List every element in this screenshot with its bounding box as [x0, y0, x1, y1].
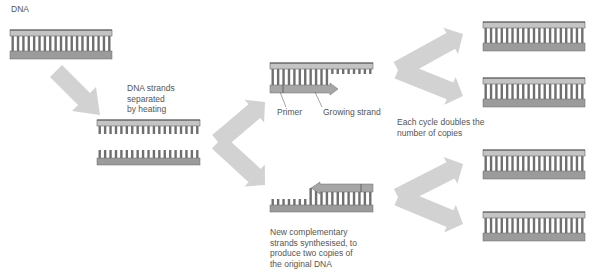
- base-pair-rung: [120, 150, 122, 158]
- base-pair-rung: [108, 36, 110, 51]
- base-pair-rung: [158, 150, 160, 158]
- base-pair-rung: [538, 156, 540, 171]
- base-pair-rung: [570, 84, 572, 99]
- base-pair-rung: [538, 28, 540, 43]
- base-pair-rung: [544, 156, 546, 171]
- primer-leader: [280, 92, 286, 107]
- base-pair-rung: [136, 126, 138, 134]
- base-pair-rung: [293, 199, 295, 205]
- base-pair-rung: [22, 36, 24, 51]
- top-backbone: [483, 22, 585, 28]
- base-pair-rung: [272, 199, 274, 205]
- base-pair-rung: [147, 126, 149, 134]
- label-separated: DNA strands separated by heating: [127, 83, 175, 115]
- base-pair-rung: [495, 28, 497, 43]
- label-growing-strand: Growing strand: [323, 107, 381, 118]
- base-pair-rung: [49, 36, 51, 51]
- base-pair-rung: [511, 84, 513, 99]
- base-pair-rung: [120, 126, 122, 134]
- base-pair-rung: [126, 150, 128, 158]
- base-pair-rung: [87, 36, 89, 51]
- base-pair-rung: [299, 69, 301, 85]
- base-pair-rung: [570, 218, 572, 233]
- base-pair-rung: [60, 36, 62, 51]
- base-pair-rung: [81, 36, 83, 51]
- base-pair-rung: [320, 69, 322, 85]
- base-pair-rung: [490, 156, 492, 171]
- base-pair-rung: [369, 69, 371, 74]
- base-pair-rung: [153, 126, 155, 134]
- base-pair-rung: [538, 84, 540, 99]
- base-pair-rung: [33, 36, 35, 51]
- base-pair-rung: [484, 156, 486, 171]
- base-pair-rung: [533, 28, 535, 43]
- base-pair-rung: [565, 84, 567, 99]
- base-pair-rung: [103, 36, 105, 51]
- base-pair-rung: [560, 218, 562, 233]
- base-pair-rung: [164, 126, 166, 134]
- base-pair-rung: [304, 69, 306, 85]
- base-pair-rung: [549, 218, 551, 233]
- base-pair-rung: [533, 156, 535, 171]
- base-pair-rung: [527, 84, 529, 99]
- base-pair-rung: [109, 126, 111, 134]
- base-pair-rung: [191, 150, 193, 158]
- top-backbone: [483, 212, 585, 218]
- dna-copy-2: [483, 78, 585, 107]
- base-pair-rung: [527, 156, 529, 171]
- base-pair-rung: [554, 218, 556, 233]
- arrow-split-3: [394, 157, 463, 233]
- base-pair-rung: [549, 84, 551, 99]
- base-pair-rung: [538, 218, 540, 233]
- arrow-split-2: [394, 28, 463, 105]
- base-pair-rung: [131, 150, 133, 158]
- base-pair-rung: [501, 218, 503, 233]
- base-pair-rung: [174, 126, 176, 134]
- base-pair-rung: [511, 156, 513, 171]
- arrow-arm: [212, 135, 265, 186]
- dna-copy-1: [483, 22, 585, 51]
- base-pair-rung: [358, 69, 360, 74]
- base-pair-rung: [11, 36, 13, 51]
- base-pair-rung: [109, 150, 111, 158]
- base-pair-rung: [495, 84, 497, 99]
- base-pair-rung: [104, 126, 106, 134]
- base-pair-rung: [180, 126, 182, 134]
- base-pair-rung: [309, 188, 311, 205]
- base-pair-rung: [99, 150, 101, 158]
- base-pair-rung: [54, 36, 56, 51]
- base-pair-rung: [533, 84, 535, 99]
- base-pair-rung: [495, 156, 497, 171]
- bottom-backbone: [97, 158, 200, 165]
- base-pair-rung: [185, 150, 187, 158]
- base-pair-rung: [511, 28, 513, 43]
- label-each-cycle: Each cycle doubles the number of copies: [397, 117, 484, 138]
- base-pair-rung: [522, 156, 524, 171]
- base-pair-rung: [65, 36, 67, 51]
- base-pair-rung: [147, 150, 149, 158]
- base-pair-rung: [136, 150, 138, 158]
- base-pair-rung: [544, 84, 546, 99]
- base-pair-rung: [174, 150, 176, 158]
- base-pair-rung: [76, 36, 78, 51]
- base-pair-rung: [522, 28, 524, 43]
- base-pair-rung: [506, 84, 508, 99]
- base-pair-rung: [277, 199, 279, 205]
- base-pair-rung: [581, 28, 583, 43]
- base-pair-rung: [517, 156, 519, 171]
- base-pair-rung: [142, 126, 144, 134]
- top-backbone: [10, 30, 112, 36]
- base-pair-rung: [565, 156, 567, 171]
- base-pair-rung: [17, 36, 19, 51]
- base-pair-rung: [581, 84, 583, 99]
- base-pair-rung: [570, 156, 572, 171]
- top-backbone: [483, 78, 585, 84]
- base-pair-rung: [517, 28, 519, 43]
- bottom-backbone: [483, 43, 585, 51]
- label-new-complementary: New complementary strands synthesised, t…: [270, 227, 357, 269]
- base-pair-rung: [97, 36, 99, 51]
- base-pair-rung: [533, 218, 535, 233]
- base-pair-rung: [288, 69, 290, 85]
- base-pair-rung: [581, 156, 583, 171]
- base-pair-rung: [44, 36, 46, 51]
